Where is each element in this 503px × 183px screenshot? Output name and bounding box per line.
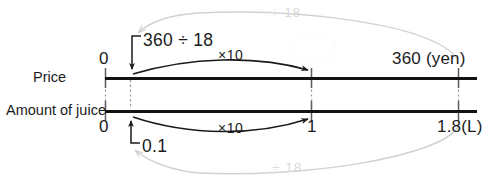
diagram-canvas: Price Amount of juice 0 360 (yen) 0 1 1.… (0, 0, 503, 183)
juice-row-label: Amount of juice (6, 103, 106, 118)
juice-zero-label: 0 (99, 118, 109, 135)
tick-marks (106, 68, 459, 121)
diagram-graphics (0, 0, 503, 183)
tick-guides (106, 80, 459, 109)
divide-eighteen-label-top: ÷ 18 (271, 6, 301, 20)
unit-price-pointer (132, 36, 141, 69)
juice-end-label: 1.8(L) (437, 118, 483, 135)
price-zero-label: 0 (99, 50, 109, 67)
juice-mid-label: 1 (307, 118, 317, 135)
multiply-ten-label-bottom: ×10 (218, 121, 243, 135)
price-row-label: Price (33, 70, 66, 85)
price-end-label: 360 (yen) (392, 50, 466, 67)
multiply-ten-label-top: ×10 (218, 48, 243, 62)
unit-amount-label: 0.1 (142, 138, 167, 156)
unit-amount-pointer (131, 121, 140, 143)
unit-price-formula-label: 360 ÷ 18 (143, 32, 213, 50)
divide-eighteen-label-bottom: ÷ 18 (272, 161, 302, 175)
answer-input-box[interactable] (289, 38, 335, 63)
